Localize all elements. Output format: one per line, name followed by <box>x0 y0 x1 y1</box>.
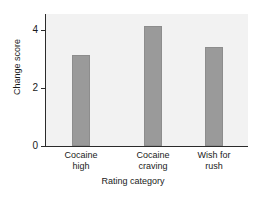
x-axis-title: Rating category <box>0 176 266 186</box>
bar-wish-for-rush <box>205 47 223 146</box>
x-tick-label-2: Wish forrush <box>177 150 251 172</box>
x-tick-label-0: Cocainehigh <box>44 150 118 172</box>
bar-cocaine-high <box>72 55 90 146</box>
x-axis-line <box>45 146 248 147</box>
y-tick-0 <box>41 146 46 147</box>
y-axis-title: Change score <box>12 12 22 122</box>
y-tick-label-0: 0 <box>18 141 38 151</box>
y-tick-2 <box>41 88 46 89</box>
y-tick-4 <box>41 30 46 31</box>
bar-chart-figure: 024 CocainehighCocainecravingWish forrus… <box>0 0 266 201</box>
plot-area <box>46 14 248 146</box>
bar-cocaine-craving <box>144 26 162 146</box>
y-axis-line <box>45 14 46 147</box>
